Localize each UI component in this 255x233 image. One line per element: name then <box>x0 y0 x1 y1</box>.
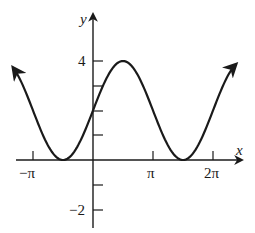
y-tick-label-4: 4 <box>78 53 86 69</box>
x-tick-label-2pi: 2π <box>204 165 220 181</box>
sine-curve <box>13 61 236 160</box>
x-tick-label-pi: π <box>147 165 155 181</box>
y-axis-label: y <box>78 11 87 27</box>
y-ticks <box>93 61 103 210</box>
function-graph: y x 4 −2 −π π 2π <box>0 0 255 233</box>
x-tick-label-neg-pi: −π <box>19 165 35 181</box>
y-tick-label-neg2: −2 <box>69 202 85 218</box>
x-axis-label: x <box>235 142 243 158</box>
